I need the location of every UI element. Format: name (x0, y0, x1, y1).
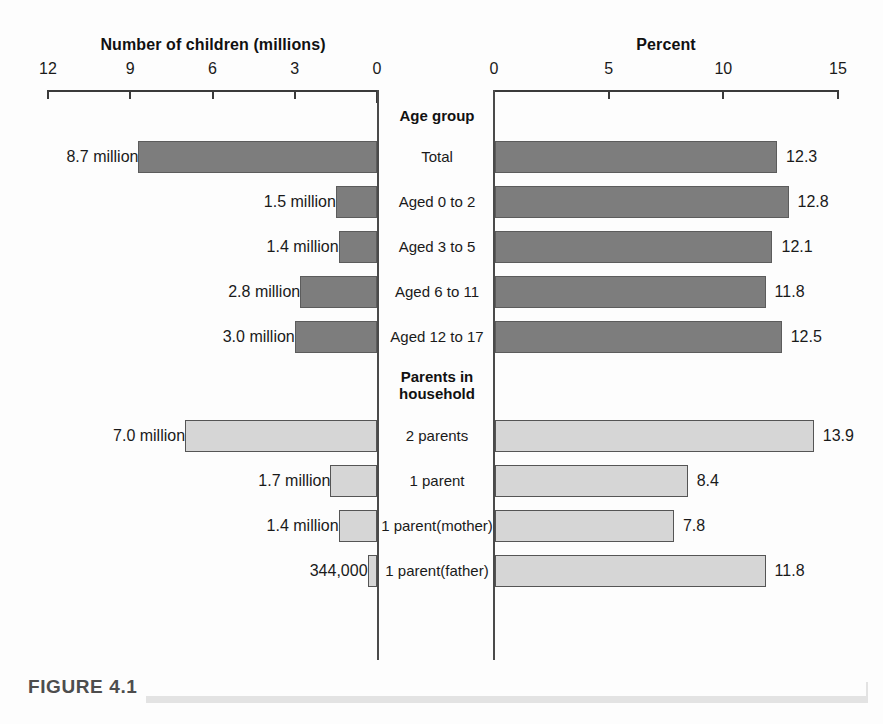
right-axis-tick-10 (722, 90, 724, 99)
count-bar[interactable] (185, 420, 377, 452)
percent-bar[interactable] (495, 510, 674, 542)
percent-value-label: 12.3 (777, 141, 817, 173)
chart-row: 3.0 millionAged 12 to 1712.5 (0, 320, 883, 354)
chart-row: 2.8 millionAged 6 to 1111.8 (0, 275, 883, 309)
right-axis-tick-5 (608, 90, 610, 99)
caption-rule (146, 696, 868, 703)
right-axis-title: Percent (494, 36, 838, 54)
count-value-label: 1.4 million (0, 510, 348, 542)
right-axis-tick-label-5: 5 (604, 60, 613, 78)
group-header-age-group: Age group (380, 108, 494, 125)
count-value-label: 2.8 million (0, 276, 309, 308)
left-axis-tick-label-12: 12 (39, 60, 57, 78)
percent-bar[interactable] (495, 420, 814, 452)
left-axis-tick-label-3: 3 (290, 60, 299, 78)
caption-rule-endcap (866, 682, 868, 703)
chart-row: 1.5 millionAged 0 to 212.8 (0, 185, 883, 219)
percent-value-label: 12.1 (772, 231, 812, 263)
percent-value-label: 11.8 (766, 555, 805, 587)
figure-caption-label: FIGURE 4.1 (28, 676, 137, 698)
left-axis-tick-label-9: 9 (126, 60, 135, 78)
count-value-label: 7.0 million (0, 420, 194, 452)
percent-bar[interactable] (495, 231, 772, 263)
count-value-label: 1.5 million (0, 186, 345, 218)
count-value-label: 1.7 million (0, 465, 339, 497)
percent-value-label: 7.8 (674, 510, 705, 542)
category-label: Total (380, 140, 494, 174)
left-axis-tick-12 (47, 90, 49, 99)
left-axis-tick-label-6: 6 (208, 60, 217, 78)
percent-bar[interactable] (495, 555, 766, 587)
category-label: Aged 0 to 2 (380, 185, 494, 219)
count-value-label: 1.4 million (0, 231, 348, 263)
right-axis-tick-15 (837, 90, 839, 99)
left-axis-tick-6 (212, 90, 214, 99)
figure-container: Number of children (millions) Percent 12… (0, 0, 883, 724)
count-bar[interactable] (295, 321, 377, 353)
category-label: 1 parent(mother) (380, 509, 494, 543)
right-axis-tick-label-15: 15 (829, 60, 847, 78)
count-bar[interactable] (300, 276, 377, 308)
percent-value-label: 12.8 (789, 186, 829, 218)
count-value-label: 344,000 (0, 555, 377, 587)
left-axis-tick-3 (294, 90, 296, 99)
right-axis-rule (494, 90, 838, 92)
chart-row: 1.7 million1 parent8.4 (0, 464, 883, 498)
left-axis-tick-9 (129, 90, 131, 99)
figure-caption-block: FIGURE 4.1 (28, 676, 868, 710)
chart-row: 1.4 millionAged 3 to 512.1 (0, 230, 883, 264)
count-value-label: 8.7 million (0, 141, 147, 173)
percent-value-label: 12.5 (782, 321, 822, 353)
percent-bar[interactable] (495, 465, 688, 497)
percent-bar[interactable] (495, 321, 782, 353)
percent-bar[interactable] (495, 186, 789, 218)
percent-bar[interactable] (495, 276, 766, 308)
percent-bar[interactable] (495, 141, 777, 173)
count-value-label: 3.0 million (0, 321, 304, 353)
right-axis-tick-label-0: 0 (490, 60, 499, 78)
percent-value-label: 8.4 (688, 465, 719, 497)
category-label: Aged 12 to 17 (380, 320, 494, 354)
left-axis-title: Number of children (millions) (48, 36, 378, 54)
chart-row: 7.0 million2 parents13.9 (0, 419, 883, 453)
count-bar[interactable] (138, 141, 377, 173)
chart-row: 8.7 millionTotal12.3 (0, 140, 883, 174)
category-label: Aged 6 to 11 (380, 275, 494, 309)
left-axis-tick-label-0: 0 (373, 60, 382, 78)
percent-value-label: 11.8 (766, 276, 805, 308)
category-label: Aged 3 to 5 (380, 230, 494, 264)
chart-row: 344,0001 parent(father)11.8 (0, 554, 883, 588)
right-axis-tick-label-10: 10 (714, 60, 732, 78)
category-label: 1 parent(father) (380, 554, 494, 588)
percent-value-label: 13.9 (814, 420, 854, 452)
chart-row: 1.4 million1 parent(mother)7.8 (0, 509, 883, 543)
group-header-parents-in-household: Parents inhousehold (380, 369, 494, 403)
category-label: 2 parents (380, 419, 494, 453)
category-label: 1 parent (380, 464, 494, 498)
